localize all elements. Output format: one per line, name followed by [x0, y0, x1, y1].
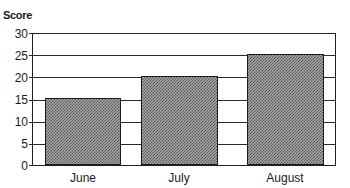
y-tick-label: 5 — [4, 138, 28, 150]
y-tick-mark — [29, 122, 33, 123]
x-tick-label-july: July — [139, 171, 219, 185]
y-tick-label: 25 — [4, 50, 28, 62]
x-tick-label-august: August — [245, 171, 325, 185]
y-tick-label: 30 — [4, 28, 28, 40]
bar-august — [247, 54, 324, 165]
y-tick-label: 10 — [4, 116, 28, 128]
y-axis-title: Score — [3, 9, 32, 21]
y-tick-mark — [29, 144, 33, 145]
bar-june — [45, 98, 121, 165]
y-tick-mark — [29, 77, 33, 78]
plot-area — [32, 33, 336, 166]
bar-chart: Score 30 25 20 15 10 5 0 June July Augus… — [0, 0, 350, 188]
y-tick-label: 15 — [4, 94, 28, 106]
y-tick-mark — [29, 100, 33, 101]
y-tick-label: 20 — [4, 72, 28, 84]
x-tick-label-june: June — [43, 171, 123, 185]
y-tick-mark — [29, 33, 33, 34]
bar-july — [141, 76, 218, 165]
y-tick-mark — [29, 165, 33, 166]
y-tick-label: 0 — [4, 160, 28, 172]
y-tick-mark — [29, 55, 33, 56]
